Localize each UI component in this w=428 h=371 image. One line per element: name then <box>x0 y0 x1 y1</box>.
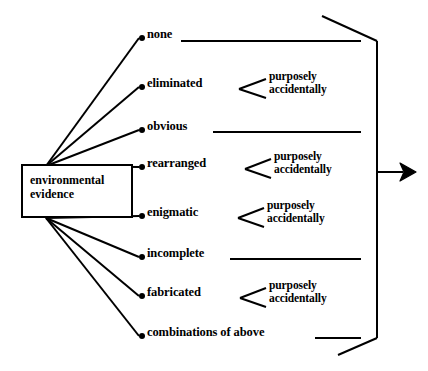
source-node-label-line1: environmental <box>30 173 104 187</box>
source-node-label-line2: evidence <box>30 187 74 201</box>
bullet-incomplete <box>139 254 145 260</box>
sublabel-rearranged-purposely[interactable]: purposely <box>274 151 322 163</box>
sublabel-rearranged-accidentally[interactable]: accidentally <box>274 164 332 176</box>
fork-enigmatic <box>238 208 264 227</box>
output-brace <box>322 16 377 355</box>
branch-label-enigmatic[interactable]: enigmatic <box>147 206 198 219</box>
bullet-eliminated <box>139 84 145 90</box>
fork-eliminated <box>239 79 266 98</box>
branch-label-fabricated[interactable]: fabricated <box>147 286 201 299</box>
bullet-combinations <box>139 333 145 339</box>
bullet-enigmatic <box>139 213 145 219</box>
bullet-rearranged <box>139 164 145 170</box>
source-node-label: environmentalevidence <box>30 174 104 202</box>
sublabel-eliminated-purposely[interactable]: purposely <box>269 71 317 83</box>
sublabel-enigmatic-purposely[interactable]: purposely <box>267 200 315 212</box>
connector-none <box>46 38 139 166</box>
sublabel-fabricated-purposely[interactable]: purposely <box>269 280 317 292</box>
branch-label-obvious[interactable]: obvious <box>147 120 187 133</box>
output-arrow-head <box>400 163 416 181</box>
sublabel-fabricated-accidentally[interactable]: accidentally <box>269 293 327 305</box>
bullet-none <box>139 35 145 41</box>
bullet-obvious <box>139 127 145 133</box>
connector-incomplete <box>46 218 139 257</box>
branch-label-incomplete[interactable]: incomplete <box>147 247 204 260</box>
connector-eliminated <box>46 87 139 166</box>
connector-combinations <box>46 218 139 336</box>
source-node-environmental-evidence[interactable]: environmentalevidence <box>21 164 133 218</box>
fork-rearranged <box>245 159 271 178</box>
sublabel-enigmatic-accidentally[interactable]: accidentally <box>267 213 325 225</box>
diagram-canvas: environmentalevidence none eliminated ob… <box>0 0 428 371</box>
branch-label-eliminated[interactable]: eliminated <box>147 77 202 90</box>
connector-obvious <box>46 130 139 166</box>
fork-fabricated <box>240 288 266 307</box>
branch-label-none[interactable]: none <box>147 28 172 41</box>
sublabel-eliminated-accidentally[interactable]: accidentally <box>269 84 327 96</box>
branch-label-combinations[interactable]: combinations of above <box>147 326 264 339</box>
connector-fabricated <box>46 218 139 296</box>
branch-label-rearranged[interactable]: rearranged <box>147 157 206 170</box>
bullet-fabricated <box>139 293 145 299</box>
